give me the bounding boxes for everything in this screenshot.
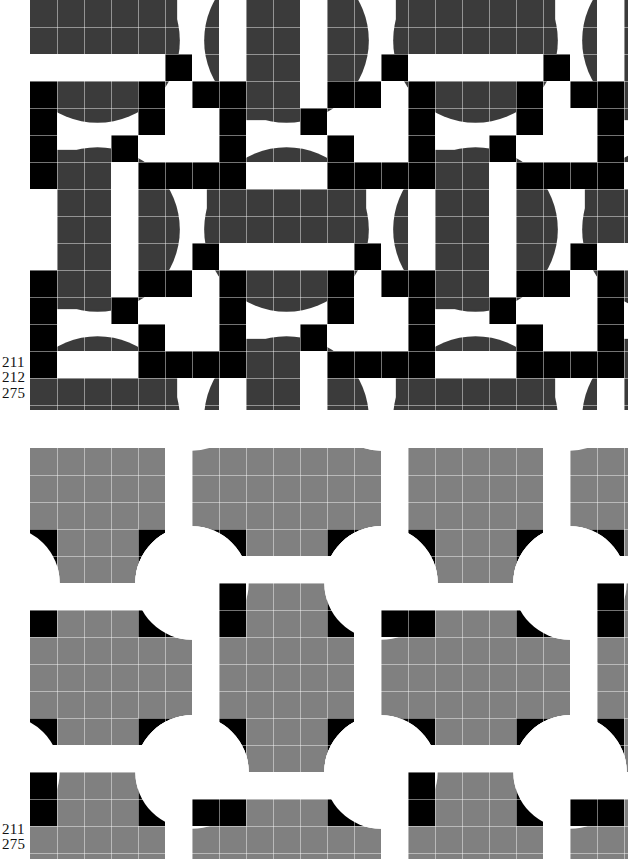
top-pattern-canvas xyxy=(30,0,628,410)
label-275-bottom: 275 xyxy=(2,837,25,852)
top-panel-labels: 211 212 275 xyxy=(2,355,25,401)
top-pattern-panel xyxy=(30,0,628,410)
bottom-pattern-panel xyxy=(30,448,628,859)
bottom-pattern-canvas xyxy=(30,448,628,859)
bottom-panel-labels: 211 275 xyxy=(2,822,25,853)
label-211-top: 211 xyxy=(2,355,25,370)
label-212-top: 212 xyxy=(2,370,25,385)
label-275-top: 275 xyxy=(2,386,25,401)
label-211-bottom: 211 xyxy=(2,822,25,837)
